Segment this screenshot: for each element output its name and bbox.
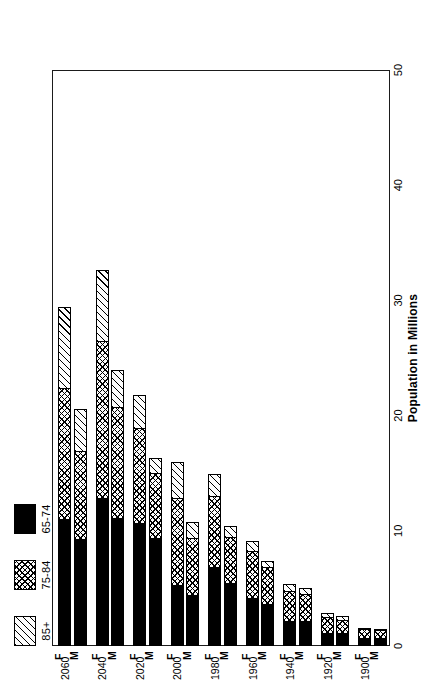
year-label-2060: 2060 bbox=[59, 657, 71, 680]
bar-2020-m bbox=[149, 458, 162, 646]
bar-1980-f bbox=[208, 474, 221, 646]
year-label-1900: 1900 bbox=[359, 657, 371, 680]
bar-segment-65-74 bbox=[149, 539, 162, 646]
year-label-1960: 1960 bbox=[247, 657, 259, 680]
bar-1960-f bbox=[246, 541, 259, 646]
bar-segment-65-74 bbox=[224, 584, 237, 646]
bar-1980-m bbox=[224, 526, 237, 646]
legend-item-85plus: 85+ bbox=[14, 616, 52, 646]
bar-segment-75-84 bbox=[358, 630, 371, 639]
bar-1920-m bbox=[336, 616, 349, 646]
bar-segment-85+ bbox=[96, 270, 109, 341]
bar-segment-85+ bbox=[208, 474, 221, 497]
bar-segment-85+ bbox=[133, 395, 146, 430]
value-tick-10: 10 bbox=[392, 525, 404, 537]
chart-legend: 85+ 75-84 65-74 bbox=[14, 504, 52, 646]
bar-2060-m bbox=[74, 409, 87, 646]
legend-swatch-65-74-icon bbox=[14, 504, 36, 534]
value-tick-30: 30 bbox=[392, 294, 404, 306]
legend-label-75-84: 75-84 bbox=[40, 560, 52, 589]
bar-segment-85+ bbox=[321, 613, 334, 619]
bar-segment-75-84 bbox=[171, 499, 184, 587]
bar-segment-85+ bbox=[224, 526, 237, 538]
bar-segment-65-74 bbox=[283, 622, 296, 646]
bar-segment-85+ bbox=[149, 458, 162, 474]
value-tick-50: 50 bbox=[392, 64, 404, 76]
bar-segment-85+ bbox=[299, 588, 312, 595]
bar-segment-85+ bbox=[111, 370, 124, 408]
bar-2020-f bbox=[133, 395, 146, 646]
legend-label-65-74: 65-74 bbox=[40, 504, 52, 533]
bar-segment-75-84 bbox=[261, 568, 274, 605]
bar-segment-85+ bbox=[358, 628, 371, 630]
bar-2000-m bbox=[186, 522, 199, 646]
bar-1940-m bbox=[299, 588, 312, 646]
legend-swatch-85plus-icon bbox=[14, 616, 36, 646]
bar-2040-f bbox=[96, 270, 109, 646]
value-axis-title: Population in Millions bbox=[406, 70, 420, 646]
bar-1900-f bbox=[358, 628, 371, 646]
bar-segment-65-74 bbox=[299, 622, 312, 646]
bar-segment-75-84 bbox=[283, 592, 296, 622]
bar-segment-75-84 bbox=[96, 342, 109, 499]
value-tick-20: 20 bbox=[392, 409, 404, 421]
bar-2000-f bbox=[171, 462, 184, 646]
bar-segment-75-84 bbox=[58, 389, 71, 520]
year-label-2020: 2020 bbox=[134, 657, 146, 680]
bar-segment-75-84 bbox=[149, 474, 162, 539]
bar-segment-85+ bbox=[171, 462, 184, 499]
bar-segment-75-84 bbox=[186, 539, 199, 597]
bar-segment-65-74 bbox=[261, 605, 274, 646]
legend-item-65-74: 65-74 bbox=[14, 504, 52, 534]
bar-segment-65-74 bbox=[96, 499, 109, 646]
bar-segment-65-74 bbox=[74, 540, 87, 646]
bar-segment-85+ bbox=[283, 584, 296, 592]
bar-segment-85+ bbox=[261, 561, 274, 568]
year-label-2000: 2000 bbox=[171, 657, 183, 680]
bar-segment-75-84 bbox=[321, 618, 334, 634]
bar-segment-75-84 bbox=[208, 497, 221, 567]
bar-segment-75-84 bbox=[246, 552, 259, 599]
bar-segment-75-84 bbox=[111, 408, 124, 520]
legend-label-85plus: 85+ bbox=[40, 621, 52, 640]
bar-2060-f bbox=[58, 307, 71, 646]
value-tick-40: 40 bbox=[392, 179, 404, 191]
bar-segment-85+ bbox=[58, 307, 71, 389]
bar-1920-f bbox=[321, 613, 334, 646]
bar-segment-65-74 bbox=[133, 524, 146, 646]
bar-1960-m bbox=[261, 561, 274, 646]
bar-segment-75-84 bbox=[224, 538, 237, 584]
plot-wrapper bbox=[52, 70, 390, 646]
bar-segment-75-84 bbox=[133, 429, 146, 523]
bar-1940-f bbox=[283, 584, 296, 646]
bar-segment-75-84 bbox=[336, 621, 349, 635]
year-label-2040: 2040 bbox=[96, 657, 108, 680]
bar-2040-m bbox=[111, 370, 124, 646]
bar-segment-85+ bbox=[186, 522, 199, 539]
bar-segment-65-74 bbox=[58, 520, 71, 646]
year-label-1920: 1920 bbox=[322, 657, 334, 680]
bar-segment-65-74 bbox=[374, 639, 387, 646]
legend-item-75-84: 75-84 bbox=[14, 560, 52, 590]
bar-segment-65-74 bbox=[336, 634, 349, 646]
bar-segment-65-74 bbox=[111, 519, 124, 646]
bar-segment-85+ bbox=[246, 541, 259, 551]
year-label-1980: 1980 bbox=[209, 657, 221, 680]
plot-area bbox=[52, 70, 390, 646]
bar-segment-85+ bbox=[74, 409, 87, 453]
bar-segment-65-74 bbox=[171, 586, 184, 646]
bar-segment-65-74 bbox=[186, 596, 199, 646]
legend-swatch-75-84-icon bbox=[14, 560, 36, 590]
bar-segment-65-74 bbox=[321, 634, 334, 646]
bar-segment-75-84 bbox=[299, 595, 312, 621]
bar-segment-65-74 bbox=[246, 599, 259, 646]
bar-1900-m bbox=[374, 629, 387, 646]
bar-segment-85+ bbox=[374, 629, 387, 631]
bar-segment-75-84 bbox=[374, 631, 387, 639]
bar-segment-75-84 bbox=[74, 452, 87, 540]
bar-segment-65-74 bbox=[358, 639, 371, 646]
year-label-1940: 1940 bbox=[284, 657, 296, 680]
